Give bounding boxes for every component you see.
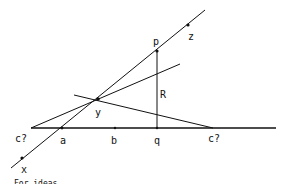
point-a xyxy=(61,127,64,130)
label-z: z xyxy=(188,31,194,42)
label-x: x xyxy=(21,164,27,175)
point-x xyxy=(20,156,23,159)
label-q: q xyxy=(154,135,160,146)
line-c-left-through-y xyxy=(31,64,180,128)
point-y xyxy=(96,97,100,101)
label-c-right: c? xyxy=(208,133,220,144)
point-q xyxy=(156,127,158,129)
geometry-diagram: p z R y c? a b q c? x For ideas ... xyxy=(0,0,284,184)
line-x-z xyxy=(11,10,205,168)
point-b xyxy=(114,127,116,129)
point-p xyxy=(155,49,158,52)
caption: For ideas ... xyxy=(14,179,77,184)
label-p: p xyxy=(153,36,159,47)
label-y: y xyxy=(95,107,101,118)
label-c-left: c? xyxy=(15,133,27,144)
point-z xyxy=(186,23,189,26)
label-b: b xyxy=(111,135,117,146)
label-a: a xyxy=(60,135,66,146)
label-R: R xyxy=(160,89,167,100)
